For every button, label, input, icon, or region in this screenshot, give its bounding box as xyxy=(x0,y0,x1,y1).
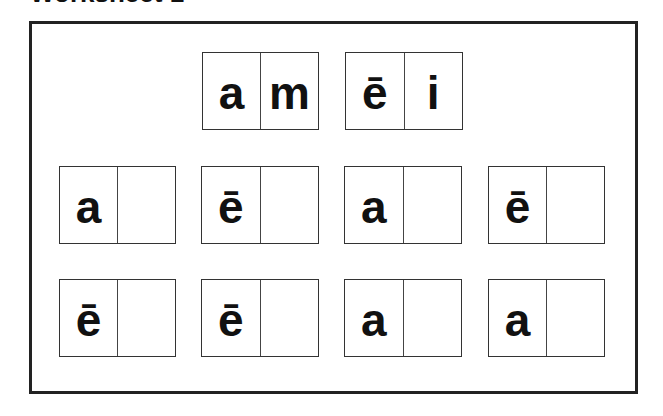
tile-right-cell: i xyxy=(404,53,463,129)
example-tile: a m xyxy=(202,52,319,130)
exercise-tile: ē xyxy=(59,279,176,357)
letter: a xyxy=(76,184,102,230)
exercise-tile: ē xyxy=(488,166,605,244)
tile-left-cell: ē xyxy=(489,167,546,243)
tile-left-cell: a xyxy=(60,167,117,243)
exercise-tile: a xyxy=(344,279,462,357)
exercise-tile: a xyxy=(59,166,176,244)
tile-left-cell: ē xyxy=(60,280,117,356)
worksheet-title: Worksheet 1 xyxy=(30,0,184,9)
exercise-tile: a xyxy=(344,166,462,244)
tile-answer-cell[interactable] xyxy=(403,167,462,243)
letter: ē xyxy=(218,184,244,230)
tile-answer-cell[interactable] xyxy=(260,280,319,356)
tile-answer-cell[interactable] xyxy=(117,167,175,243)
letter: ē xyxy=(76,297,102,343)
exercise-tile: ē xyxy=(201,279,319,357)
tile-left-cell: ē xyxy=(346,53,404,129)
tile-answer-cell[interactable] xyxy=(546,280,604,356)
tile-left-cell: a xyxy=(489,280,546,356)
tile-left-cell: a xyxy=(345,167,403,243)
tile-right-cell: m xyxy=(260,53,318,129)
letter: a xyxy=(361,184,387,230)
letter: a xyxy=(219,70,245,116)
tile-left-cell: ē xyxy=(202,280,260,356)
tile-answer-cell[interactable] xyxy=(117,280,175,356)
tile-answer-cell[interactable] xyxy=(403,280,462,356)
exercise-tile: a xyxy=(488,279,605,357)
tile-answer-cell[interactable] xyxy=(260,167,319,243)
letter: m xyxy=(269,70,310,116)
tile-left-cell: a xyxy=(203,53,260,129)
letter: ē xyxy=(362,70,388,116)
letter: a xyxy=(505,297,531,343)
letter: ē xyxy=(218,297,244,343)
tile-answer-cell[interactable] xyxy=(546,167,604,243)
tile-left-cell: ē xyxy=(202,167,260,243)
letter: a xyxy=(361,297,387,343)
letter: ē xyxy=(505,184,531,230)
letter: i xyxy=(427,70,440,116)
exercise-tile: ē xyxy=(201,166,319,244)
example-tile: ē i xyxy=(345,52,463,130)
tile-left-cell: a xyxy=(345,280,403,356)
